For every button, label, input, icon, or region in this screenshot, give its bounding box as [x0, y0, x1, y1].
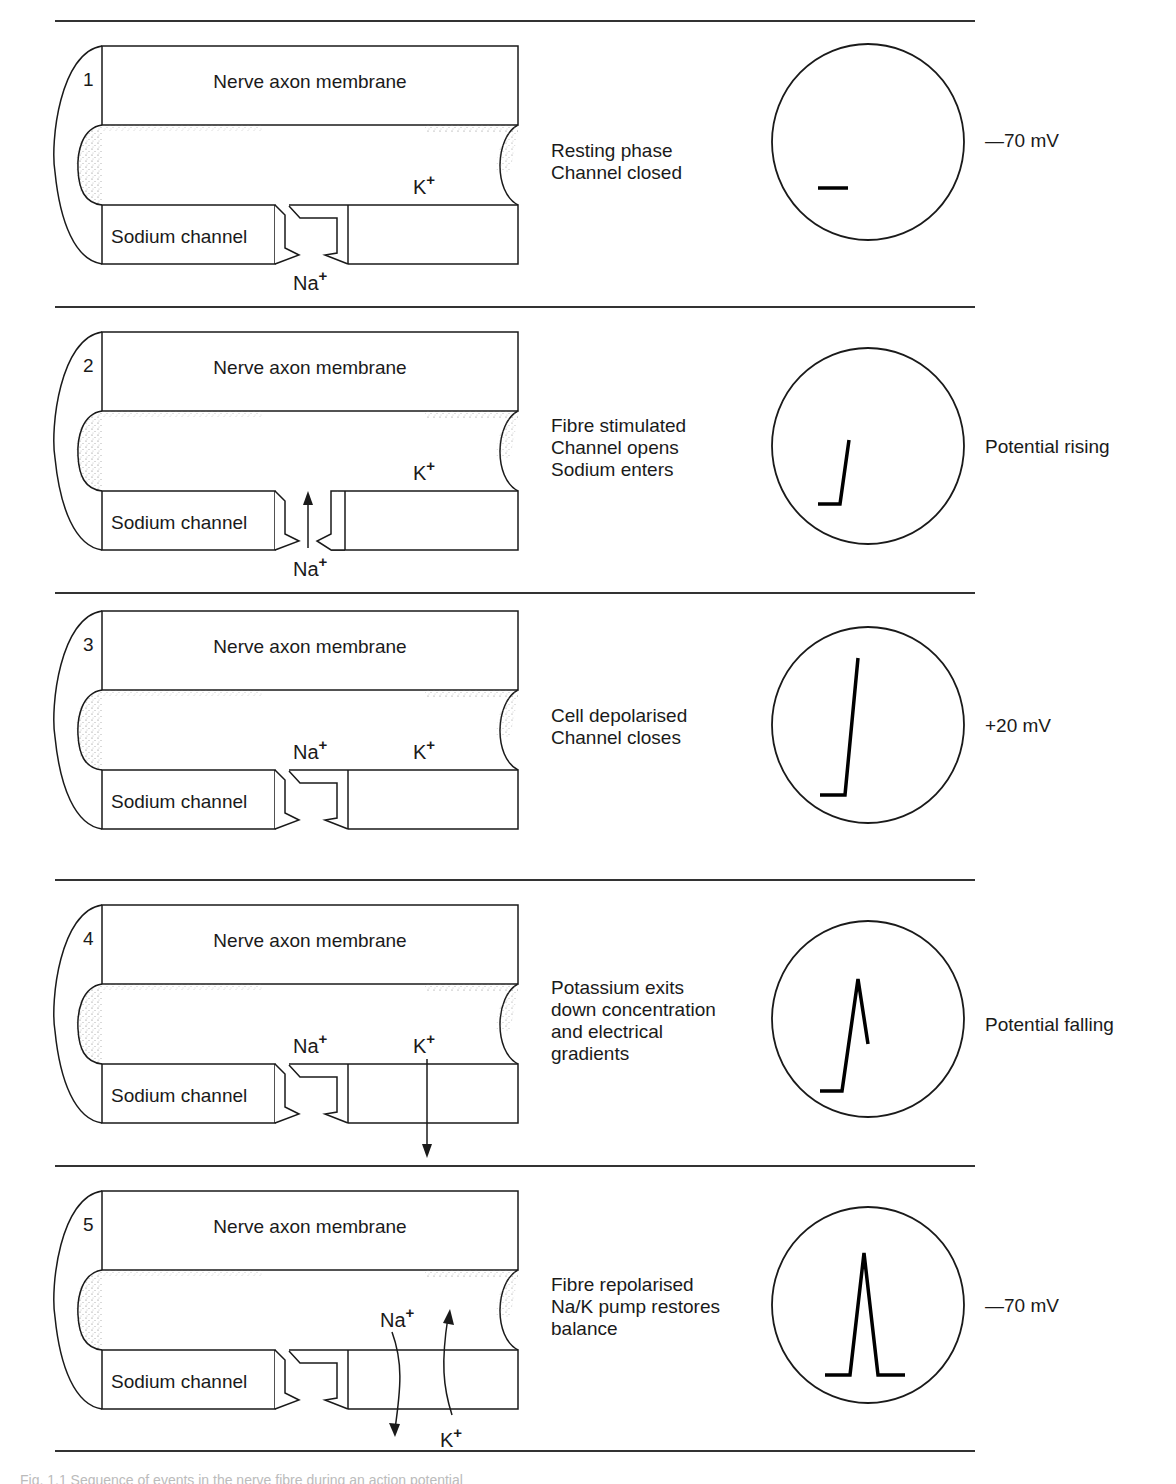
- voltage-trace: [818, 440, 849, 504]
- sodium-channel-label: Sodium channel: [111, 1371, 247, 1392]
- panel-3: Sodium channelNa+K+3Nerve axon membraneC…: [0, 594, 1176, 880]
- panel-number: 1: [83, 69, 94, 90]
- oscilloscope: [770, 625, 970, 825]
- panel-2: Sodium channelNa+K+2Nerve axon membraneF…: [0, 308, 1176, 594]
- oscilloscope-screen: [772, 627, 964, 823]
- axon-diagram: Sodium channelNa+K+5Nerve axon membrane: [55, 1167, 535, 1453]
- oscilloscope-screen: [772, 921, 964, 1117]
- membrane-label: Nerve axon membrane: [213, 71, 406, 92]
- phase-description: Fibre stimulated Channel opens Sodium en…: [551, 415, 686, 481]
- membrane-label: Nerve axon membrane: [213, 357, 406, 378]
- potential-reading: +20 mV: [985, 715, 1051, 737]
- panel-number: 5: [83, 1214, 94, 1235]
- oscilloscope: [770, 1205, 970, 1405]
- oscilloscope-screen: [772, 348, 964, 544]
- oscilloscope: [770, 919, 970, 1119]
- voltage-trace: [820, 658, 858, 795]
- sodium-ion-label: Na+: [293, 267, 328, 294]
- figure-caption: Fig. 1.1 Sequence of events in the nerve…: [20, 1472, 463, 1484]
- membrane-label: Nerve axon membrane: [213, 930, 406, 951]
- potassium-ion-label: K+: [413, 1030, 435, 1057]
- phase-description: Fibre repolarised Na/K pump restores bal…: [551, 1274, 720, 1340]
- channel-gate-left: [275, 491, 299, 550]
- potential-reading: Potential falling: [985, 1014, 1114, 1036]
- axon-diagram: Sodium channelNa+K+3Nerve axon membrane: [55, 594, 535, 880]
- voltage-trace: [820, 979, 868, 1091]
- voltage-trace: [825, 1253, 905, 1375]
- phase-description: Resting phase Channel closed: [551, 140, 682, 184]
- sodium-ion-label: Na+: [293, 736, 328, 763]
- membrane-label: Nerve axon membrane: [213, 1216, 406, 1237]
- panel-5: Sodium channelNa+K+5Nerve axon membraneF…: [0, 1167, 1176, 1453]
- sodium-channel-label: Sodium channel: [111, 791, 247, 812]
- oscilloscope-screen: [772, 44, 964, 240]
- axon-diagram: Sodium channelNa+K+2Nerve axon membrane: [55, 308, 535, 594]
- axon-diagram: Sodium channelNa+K+4Nerve axon membrane: [55, 881, 535, 1167]
- oscilloscope-screen: [772, 1207, 964, 1403]
- sodium-channel-label: Sodium channel: [111, 1085, 247, 1106]
- oscilloscope: [770, 42, 970, 242]
- phase-description: Cell depolarised Channel closes: [551, 705, 687, 749]
- axon-diagram: Sodium channelNa+K+1Nerve axon membrane: [55, 22, 535, 308]
- sodium-channel-label: Sodium channel: [111, 226, 247, 247]
- panel-1: Sodium channelNa+K+1Nerve axon membraneR…: [0, 22, 1176, 308]
- phase-description: Potassium exits down concentration and e…: [551, 977, 716, 1065]
- potential-reading: —70 mV: [985, 130, 1059, 152]
- potassium-ion-label: K+: [440, 1424, 462, 1451]
- panel-number: 3: [83, 634, 94, 655]
- potential-reading: —70 mV: [985, 1295, 1059, 1317]
- axon-lower-block: [331, 491, 518, 550]
- sodium-ion-label: Na+: [293, 1030, 328, 1057]
- panel-number: 4: [83, 928, 94, 949]
- potassium-ion-label: K+: [413, 171, 435, 198]
- oscilloscope: [770, 346, 970, 546]
- potassium-ion-label: K+: [413, 457, 435, 484]
- potential-reading: Potential rising: [985, 436, 1110, 458]
- membrane-label: Nerve axon membrane: [213, 636, 406, 657]
- panel-4: Sodium channelNa+K+4Nerve axon membraneP…: [0, 881, 1176, 1167]
- sodium-channel-label: Sodium channel: [111, 512, 247, 533]
- potassium-ion-label: K+: [413, 736, 435, 763]
- sodium-ion-label: Na+: [380, 1304, 415, 1331]
- sodium-ion-label: Na+: [293, 553, 328, 580]
- panel-number: 2: [83, 355, 94, 376]
